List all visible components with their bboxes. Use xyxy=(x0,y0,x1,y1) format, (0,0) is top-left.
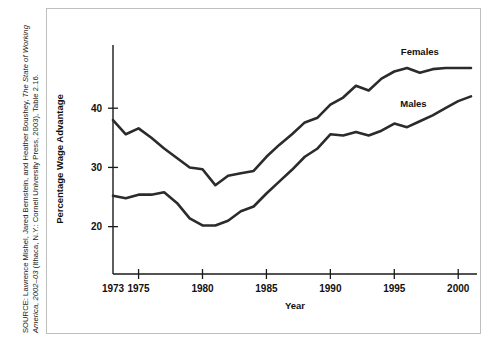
x-axis-ticks: 1973197519801985199019952000 xyxy=(102,269,470,294)
y-tick-label: 40 xyxy=(91,103,103,114)
x-tick-label: 1995 xyxy=(383,283,406,294)
series-group xyxy=(113,68,471,226)
y-tick-label: 30 xyxy=(91,162,103,173)
source-note-text: SOURCE: Lawrence Mishel, Jared Bernstein… xyxy=(21,3,44,341)
y-axis-title: Percentage Wage Advantage xyxy=(54,94,65,224)
x-tick-label: 1980 xyxy=(191,283,214,294)
x-tick-label: 1985 xyxy=(255,283,278,294)
series-label-males: Males xyxy=(400,98,426,109)
source-suffix: (Ithaca, N.Y.: Cornell University Press,… xyxy=(31,74,40,270)
x-axis-title: Year xyxy=(285,300,305,311)
series-line-females xyxy=(113,68,471,185)
source-prefix: SOURCE: Lawrence Mishel, Jared Bernstein… xyxy=(21,97,30,333)
chart-panel: 203040 1973197519801985199019952000 Fema… xyxy=(46,8,481,334)
x-tick-label: 2000 xyxy=(447,283,470,294)
x-tick-label: 1973 xyxy=(102,283,125,294)
series-label-females: Females xyxy=(401,46,439,57)
line-chart-svg: 203040 1973197519801985199019952000 Fema… xyxy=(47,9,482,335)
figure-container: SOURCE: Lawrence Mishel, Jared Bernstein… xyxy=(0,0,485,341)
x-tick-label: 1990 xyxy=(319,283,342,294)
series-inline-labels: FemalesMales xyxy=(400,46,439,109)
source-note: SOURCE: Lawrence Mishel, Jared Bernstein… xyxy=(0,0,44,341)
series-line-males xyxy=(113,96,471,225)
y-tick-label: 20 xyxy=(91,221,103,232)
x-tick-label: 1975 xyxy=(127,283,150,294)
